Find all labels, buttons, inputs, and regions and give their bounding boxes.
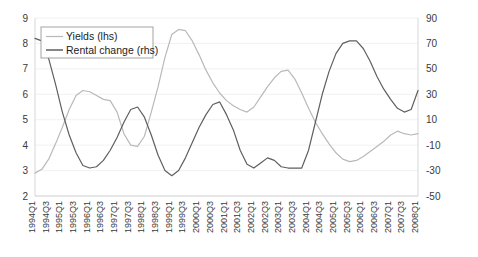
right-axis-tick-label: 30 bbox=[426, 89, 438, 100]
x-axis-tick-label: 2002Q1 bbox=[246, 201, 256, 233]
left-axis-tick-label: 9 bbox=[22, 13, 28, 24]
x-axis-tick-label: 2000Q3 bbox=[205, 201, 215, 233]
right-axis-tick-label: -30 bbox=[426, 165, 441, 176]
legend-label-2: Rental change (rhs) bbox=[66, 44, 158, 56]
left-axis-tick-label: 6 bbox=[22, 89, 28, 100]
right-axis-tick-label: -50 bbox=[426, 191, 441, 202]
x-axis-tick-label: 1996Q3 bbox=[95, 201, 105, 233]
left-axis-tick-label: 2 bbox=[22, 191, 28, 202]
left-axis-tick-label: 3 bbox=[22, 165, 28, 176]
x-axis-tick-label: 1996Q1 bbox=[82, 201, 92, 233]
x-axis-tick-label: 2001Q3 bbox=[232, 201, 242, 233]
x-axis-tick-label: 1997Q3 bbox=[123, 201, 133, 233]
x-axis-tick-label: 2004Q1 bbox=[301, 201, 311, 233]
left-axis-tick-label: 7 bbox=[22, 63, 28, 74]
x-axis-tick-label: 1994Q3 bbox=[41, 201, 51, 233]
x-axis-tick-label: 1999Q3 bbox=[177, 201, 187, 233]
x-axis-tick-label: 2006Q3 bbox=[369, 201, 379, 233]
x-axis-tick-label: 2006Q1 bbox=[355, 201, 365, 233]
x-axis-tick-label: 2008Q1 bbox=[410, 201, 420, 233]
x-axis-tick-label: 2000Q1 bbox=[191, 201, 201, 233]
x-axis-tick-label: 1998Q3 bbox=[150, 201, 160, 233]
legend-label-1: Yields (lhs) bbox=[66, 30, 118, 42]
right-axis-tick-label: 90 bbox=[426, 13, 438, 24]
dual-axis-line-chart: 23456789 -50-30-101030507090 1994Q11994Q… bbox=[0, 0, 478, 257]
x-axis-tick-label: 2005Q3 bbox=[342, 201, 352, 233]
x-axis-tick-label: 1994Q1 bbox=[27, 201, 37, 233]
left-axis-tick-label: 4 bbox=[22, 140, 28, 151]
x-axis-tick-label: 2001Q1 bbox=[219, 201, 229, 233]
x-axis-tick-label: 1995Q3 bbox=[68, 201, 78, 233]
left-axis-tick-label: 5 bbox=[22, 114, 28, 125]
x-axis-tick-label: 2007Q3 bbox=[396, 201, 406, 233]
right-axis-tick-label: 70 bbox=[426, 38, 438, 49]
x-axis-tick-label: 2007Q1 bbox=[383, 201, 393, 233]
x-axis-tick-label: 1997Q1 bbox=[109, 201, 119, 233]
x-axis-tick-label: 2003Q3 bbox=[287, 201, 297, 233]
x-axis-tick-label: 1999Q1 bbox=[164, 201, 174, 233]
x-axis-tick-label: 1995Q1 bbox=[54, 201, 64, 233]
x-axis-tick-label: 2005Q1 bbox=[328, 201, 338, 233]
x-axis-tick-labels: 1994Q11994Q31995Q11995Q31996Q11996Q31997… bbox=[27, 201, 420, 233]
right-axis-tick-label: 10 bbox=[426, 114, 438, 125]
left-axis-tick-label: 8 bbox=[22, 38, 28, 49]
right-axis-tick-label: 50 bbox=[426, 63, 438, 74]
x-axis-tick-label: 2004Q3 bbox=[314, 201, 324, 233]
chart-container: 23456789 -50-30-101030507090 1994Q11994Q… bbox=[0, 0, 478, 257]
x-axis-tick-label: 2002Q3 bbox=[260, 201, 270, 233]
x-axis-tick-label: 1998Q1 bbox=[136, 201, 146, 233]
x-axis-tick-label: 2003Q1 bbox=[273, 201, 283, 233]
chart-legend: Yields (lhs)Rental change (rhs) bbox=[41, 27, 158, 58]
right-axis-tick-label: -10 bbox=[426, 140, 441, 151]
